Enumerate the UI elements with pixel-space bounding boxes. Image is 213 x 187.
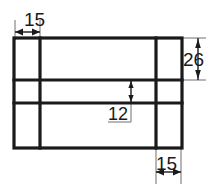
arrowhead-12-top — [128, 81, 133, 88]
dimension-label-15-bottom-right: 15 — [156, 153, 177, 174]
dimension-label-26-right: 26 — [183, 49, 204, 70]
arrowhead-12-bottom — [128, 95, 133, 102]
drawing-svg: 15 26 12 15 — [0, 0, 213, 187]
engineering-drawing-canvas: 15 26 12 15 — [0, 0, 213, 187]
arrowhead-26-top — [195, 39, 201, 48]
arrowhead-15-top-left-start — [15, 28, 23, 35]
arrowhead-26-bottom — [195, 70, 201, 79]
dimension-label-15-top-left: 15 — [24, 9, 45, 30]
object-geometry-group — [14, 38, 182, 148]
dimension-12-center — [128, 80, 133, 103]
dimension-label-12-center: 12 — [108, 104, 128, 124]
